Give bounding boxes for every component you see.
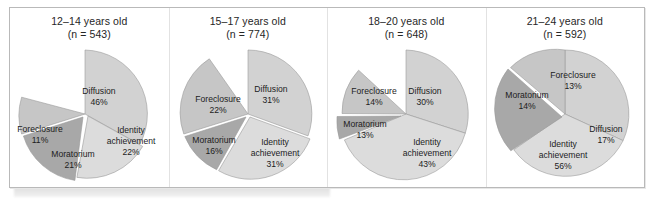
panel-title-21-24: 21–24 years old(n = 592) [486,15,645,40]
label-moratorium-pct: 13% [357,130,375,140]
pie-panel-21-24: 21–24 years old(n = 592) Diffusion 17% F… [486,8,645,187]
label-diffusion: Diffusion [589,124,623,134]
pie-panel-15-17: 15–17 years old(n = 774) Diffusion 31% F… [169,8,328,187]
label-moratorium-pct: 21% [65,160,83,170]
label-foreclosure-pct: 22% [209,105,227,115]
label-moratorium-pct: 14% [518,101,536,111]
label-identity-pct: 43% [419,159,437,169]
pie-panel-18-20: 18–20 years old(n = 648) Diffusion 30% F… [327,8,486,187]
pie-panel-12-14: 12–14 years old(n = 543) Diffusion 46% F… [10,8,169,187]
label-diffusion: Diffusion [409,86,443,96]
label-identity-line1: Identity [549,139,577,149]
panel-title-18-20: 18–20 years old(n = 648) [327,15,486,40]
label-foreclosure-pct: 14% [366,97,384,107]
label-identity-pct: 56% [554,161,572,171]
pie-chart-12-14: Diffusion 46% Foreclosure 11% Moratorium… [10,44,169,188]
pie-chart-15-17: Diffusion 31% Foreclosure 22% Moratorium… [169,44,328,188]
pie-svg-15-17: Diffusion 31% Foreclosure 22% Moratorium… [172,44,324,184]
label-moratorium-pct: 16% [205,146,223,156]
label-moratorium: Moratorium [52,149,95,159]
label-moratorium: Moratorium [192,135,235,145]
pie-chart-21-24: Diffusion 17% Foreclosure 13% Moratorium… [486,44,645,188]
label-identity-line2: achievement [107,136,156,146]
pie-svg-21-24: Diffusion 17% Foreclosure 13% Moratorium… [489,44,641,184]
label-identity-pct: 31% [266,159,284,169]
label-diffusion-pct: 46% [91,97,109,107]
label-foreclosure: Foreclosure [195,94,241,104]
panel-title-12-14: 12–14 years old(n = 543) [10,15,169,40]
label-diffusion-pct: 30% [417,97,435,107]
label-identity-line1: Identity [413,137,441,147]
label-foreclosure-pct: 11% [32,135,49,145]
label-identity-line1: Identity [261,137,289,147]
label-foreclosure: Foreclosure [18,124,64,134]
label-identity-line1: Identity [117,125,145,135]
panel-title-15-17: 15–17 years old(n = 774) [169,15,328,40]
label-identity-line2: achievement [250,148,299,158]
label-foreclosure-pct: 13% [564,81,582,91]
label-diffusion-pct: 17% [597,135,615,145]
label-foreclosure: Foreclosure [550,70,596,80]
pie-chart-18-20: Diffusion 30% Foreclosure 14% Moratorium… [327,44,486,188]
label-identity-line2: achievement [403,148,452,158]
pie-svg-12-14: Diffusion 46% Foreclosure 11% Moratorium… [13,44,165,184]
label-diffusion: Diffusion [83,86,117,96]
label-diffusion-pct: 31% [262,95,280,105]
label-diffusion: Diffusion [254,84,288,94]
figure-frame: 12–14 years old(n = 543) Diffusion 46% F… [9,7,645,188]
label-foreclosure: Foreclosure [352,86,398,96]
label-identity-line2: achievement [538,150,587,160]
label-identity-pct: 22% [123,147,141,157]
label-moratorium: Moratorium [344,119,387,129]
label-moratorium: Moratorium [505,90,548,100]
pie-svg-18-20: Diffusion 30% Foreclosure 14% Moratorium… [330,44,482,184]
